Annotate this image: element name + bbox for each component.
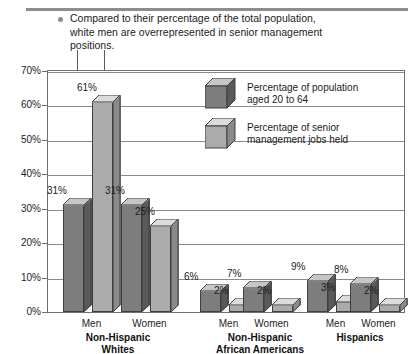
y-axis-tick-mark <box>42 71 47 72</box>
x-axis-group-label-line2: African Americans <box>190 344 330 354</box>
y-axis-tick-label: 10% <box>3 272 41 283</box>
bar-front-face <box>272 305 293 312</box>
x-axis-group-label-line1: Non-Hispanic <box>48 332 188 344</box>
y-axis-tick-mark <box>42 312 47 313</box>
x-axis-group-label-line2: Whites <box>48 344 188 354</box>
bar-value-label-management: 2% <box>364 285 378 296</box>
y-axis-tick-label: 30% <box>3 203 41 214</box>
bar-population-0-men <box>63 205 84 312</box>
bar-side-outline <box>84 198 92 312</box>
bar-value-label-population: 31% <box>105 185 125 196</box>
caption-block: Compared to their percentage of the tota… <box>58 12 328 53</box>
y-axis-tick-label: 40% <box>3 168 41 179</box>
bar-side-outline <box>328 274 336 312</box>
bullet-dot-icon <box>58 17 63 22</box>
bar-management-1-women <box>272 305 293 312</box>
bar-management-0-men <box>92 102 113 312</box>
bar-value-label-management: 2% <box>214 285 228 296</box>
x-axis-gender-label: Men <box>62 318 122 329</box>
y-axis-tick-mark <box>42 243 47 244</box>
cube-icon-dark <box>205 78 239 110</box>
bar-value-label-population: 9% <box>291 261 305 272</box>
bar-value-label-population: 8% <box>334 264 348 275</box>
caption-text: Compared to their percentage of the tota… <box>70 12 328 53</box>
bar-front-face <box>121 205 142 312</box>
y-axis-tick-label: 70% <box>3 65 41 76</box>
y-axis-tick-mark <box>42 140 47 141</box>
bar-side-outline <box>171 219 179 312</box>
legend-label: Percentage of senior management jobs hel… <box>247 122 407 147</box>
bar-value-label-management: 3% <box>321 282 335 293</box>
bar-population-0-women <box>121 205 142 312</box>
bar-value-label-population: 7% <box>227 268 241 279</box>
bar-value-label-population: 31% <box>47 185 67 196</box>
cube-icon-light <box>205 118 239 150</box>
bar-management-0-women <box>150 226 171 312</box>
bar-front-face <box>379 305 400 312</box>
x-axis-group-label-line1: Hispanics <box>290 332 414 344</box>
bar-value-label-management: 25% <box>135 206 155 217</box>
bar-management-2-women <box>379 305 400 312</box>
x-axis-gender-label: Women <box>242 318 302 329</box>
bar-side-outline <box>293 298 301 312</box>
y-axis-tick-mark <box>42 174 47 175</box>
legend-label: Percentage of population aged 20 to 64 <box>247 82 407 107</box>
x-axis-group-label: Hispanics <box>290 332 414 344</box>
y-axis-tick-mark <box>42 278 47 279</box>
chart-page: Compared to their percentage of the tota… <box>0 0 414 354</box>
y-axis-tick-label: 20% <box>3 237 41 248</box>
top-divider-rule <box>26 8 408 11</box>
bar-front-face <box>92 102 113 312</box>
bar-value-label-management: 61% <box>77 82 97 93</box>
bar-side-outline <box>113 95 121 312</box>
bar-side-outline <box>400 298 408 312</box>
y-axis-tick-mark <box>42 105 47 106</box>
bar-value-label-population: 6% <box>184 271 198 282</box>
y-axis-tick-label: 0% <box>3 306 41 317</box>
y-axis-tick-label: 50% <box>3 134 41 145</box>
bar-value-label-management: 2% <box>257 285 271 296</box>
gridline <box>48 72 404 73</box>
bar-front-face <box>150 226 171 312</box>
bar-front-face <box>63 205 84 312</box>
x-axis-group-label: Non-HispanicWhites <box>48 332 188 354</box>
x-axis-gender-label: Women <box>349 318 409 329</box>
y-axis-tick-label: 60% <box>3 99 41 110</box>
x-axis-gender-label: Women <box>120 318 180 329</box>
y-axis-tick-mark <box>42 209 47 210</box>
